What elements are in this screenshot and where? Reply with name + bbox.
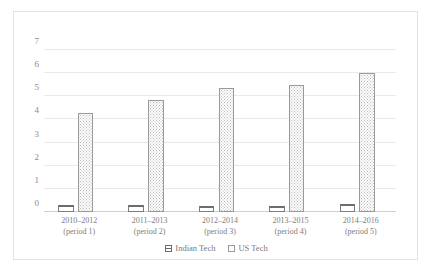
bar-us-tech[interactable] xyxy=(78,113,93,213)
x-axis-label-years: 2013–2015 xyxy=(272,216,308,225)
bar-indian-tech[interactable] xyxy=(340,204,355,212)
legend-label: Indian Tech xyxy=(175,243,215,253)
bar-group xyxy=(114,50,184,212)
y-axis-tick: 6 xyxy=(35,60,40,69)
x-axis-label: 2013–2015(period 4) xyxy=(255,215,325,237)
x-axis-label-period: (period 2) xyxy=(114,226,184,237)
y-axis-tick: 3 xyxy=(35,129,40,138)
y-axis-tick: 0 xyxy=(35,199,40,208)
x-axis-label-years: 2012–2014 xyxy=(202,216,238,225)
x-axis-label: 2011–2013(period 2) xyxy=(114,215,184,237)
bar-us-tech[interactable] xyxy=(289,85,304,212)
plot-area: 01234567 xyxy=(44,50,396,212)
x-axis-label-years: 2011–2013 xyxy=(132,216,168,225)
x-axis-label-period: (period 1) xyxy=(44,226,114,237)
bar-indian-tech[interactable] xyxy=(269,206,284,212)
y-axis-tick: 4 xyxy=(35,106,40,115)
x-axis-label-years: 2010–2012 xyxy=(61,216,97,225)
legend-item[interactable]: US Tech xyxy=(228,243,267,253)
x-axis-label-period: (period 4) xyxy=(255,226,325,237)
bar-indian-tech[interactable] xyxy=(199,206,214,212)
bar-group xyxy=(255,50,325,212)
chart-frame: 01234567 2010–2012(period 1)2011–2013(pe… xyxy=(13,11,418,260)
bar-indian-tech[interactable] xyxy=(58,205,73,212)
y-axis-tick: 1 xyxy=(35,175,40,184)
legend-swatch-icon xyxy=(165,245,172,252)
y-axis-tick: 2 xyxy=(35,152,40,161)
legend-item[interactable]: Indian Tech xyxy=(165,243,215,253)
bar-group xyxy=(44,50,114,212)
x-axis-label-years: 2014–2016 xyxy=(343,216,379,225)
x-axis-label-period: (period 3) xyxy=(185,226,255,237)
bar-group xyxy=(185,50,255,212)
bar-us-tech[interactable] xyxy=(148,100,163,212)
bar-us-tech[interactable] xyxy=(219,88,234,212)
x-axis-label: 2010–2012(period 1) xyxy=(44,215,114,237)
bar-us-tech[interactable] xyxy=(359,73,374,212)
y-axis-tick: 7 xyxy=(35,37,40,46)
x-axis-category-labels: 2010–2012(period 1)2011–2013(period 2)20… xyxy=(44,215,396,237)
x-axis-label: 2012–2014(period 3) xyxy=(185,215,255,237)
chart-legend: Indian TechUS Tech xyxy=(14,243,419,253)
x-axis-label-period: (period 5) xyxy=(326,226,396,237)
bar-group xyxy=(326,50,396,212)
y-axis-tick: 5 xyxy=(35,83,40,92)
bar-groups xyxy=(44,50,396,212)
x-axis-label: 2014–2016(period 5) xyxy=(326,215,396,237)
legend-label: US Tech xyxy=(238,243,267,253)
legend-swatch-icon xyxy=(228,245,235,252)
bar-indian-tech[interactable] xyxy=(128,205,143,212)
